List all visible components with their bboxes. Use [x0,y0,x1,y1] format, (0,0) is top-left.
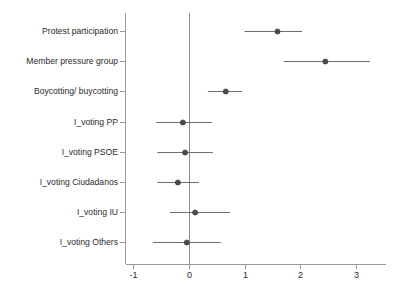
estimate-marker [183,150,188,155]
category-label: I_voting Ciudadanos [40,177,118,187]
x-tick-label: 3 [354,270,359,280]
data-point-row [157,150,213,155]
estimate-marker [323,59,328,64]
category-label: I_voting IU [77,207,118,217]
estimate-marker [184,240,189,245]
y-axis-ticks [120,32,126,243]
x-tick-label: 1 [243,270,248,280]
data-point-row [153,240,221,245]
category-label: Protest participation [42,26,118,36]
category-label: I_voting Others [60,237,118,247]
x-tick-label: 0 [187,270,192,280]
category-label: Member pressure group [26,56,118,66]
estimate-marker [180,120,185,125]
chart-canvas: Protest participationMember pressure gro… [0,0,402,296]
x-tick-label: -1 [129,270,137,280]
data-point-row [157,180,199,185]
category-label: I_voting PSOE [62,147,119,157]
x-tick-label: 2 [298,270,303,280]
data-point-row [170,210,230,215]
x-tick-labels: -10123 [129,270,359,280]
data-point-row [208,89,242,94]
plot-area: Protest participationMember pressure gro… [0,0,402,296]
estimate-marker [193,210,198,215]
coefficient-plot: Protest participationMember pressure gro… [0,0,402,296]
estimate-marker [223,89,228,94]
category-label: I_voting PP [74,117,118,127]
data-point-row [245,29,302,34]
data-point-row [156,120,212,125]
axis-group [126,13,387,265]
estimate-marker [175,180,180,185]
category-label: Boycotting/ buycotting [34,86,118,96]
category-labels: Protest participationMember pressure gro… [26,26,118,247]
estimate-marker [275,29,280,34]
data-series [153,29,370,245]
data-point-row [284,59,370,64]
